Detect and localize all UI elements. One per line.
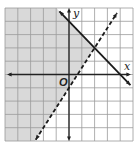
inequality-graph: x y O bbox=[0, 0, 136, 142]
origin-label: O bbox=[59, 76, 68, 88]
y-axis-label: y bbox=[72, 7, 80, 20]
x-axis-label: x bbox=[124, 60, 131, 73]
